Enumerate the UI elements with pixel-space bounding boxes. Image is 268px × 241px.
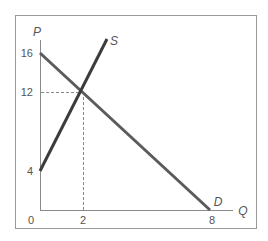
- y-tick-4: 4: [27, 165, 33, 177]
- x-tick-8: 8: [209, 214, 215, 226]
- origin-label: 0: [28, 214, 34, 226]
- q-axis-label: Q: [238, 204, 247, 218]
- demand-curve: [40, 53, 210, 210]
- demand-label: D: [214, 195, 223, 209]
- y-tick-16: 16: [21, 47, 33, 59]
- x-tick-2: 2: [80, 214, 86, 226]
- p-axis-label: P: [33, 25, 41, 39]
- y-tick-12: 12: [21, 86, 33, 98]
- supply-label: S: [110, 34, 118, 48]
- supply-demand-chart: P Q S D 16 12 4 0 2 8: [0, 0, 268, 241]
